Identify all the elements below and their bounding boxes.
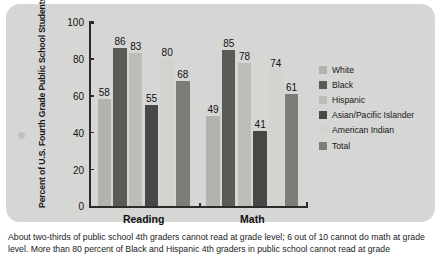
legend-item[interactable]: Total (319, 138, 435, 153)
chart-legend: WhiteBlackHispanicAsian/Pacific Islander… (319, 62, 435, 153)
bar-series-container: 588683558068498578417461 (91, 22, 308, 206)
bar-value-label: 41 (255, 119, 266, 130)
x-axis-group-label: Reading (123, 213, 164, 225)
bar-value-label: 83 (130, 41, 141, 52)
y-axis-tick-label: 20 (73, 164, 84, 175)
plot-area: 020406080100 588683558068498578417461 Re… (89, 22, 308, 208)
bar: 78 (238, 63, 252, 207)
legend-swatch-icon (319, 66, 327, 74)
bar-value-label: 86 (114, 36, 125, 47)
bar-value-label: 68 (177, 69, 188, 80)
legend-item[interactable]: Hispanic (319, 92, 435, 107)
plot-inner: 020406080100 588683558068498578417461 Re… (89, 22, 308, 208)
bar: 83 (129, 53, 143, 206)
bar-value-label: 49 (207, 104, 218, 115)
bar: 74 (269, 70, 283, 206)
y-axis-tick-label: 0 (78, 201, 84, 212)
bar: 85 (222, 50, 236, 207)
y-axis-tick-label: 80 (73, 53, 84, 64)
bar: 86 (113, 48, 127, 207)
legend-label: Black (332, 80, 353, 90)
legend-label: American Indian (332, 125, 394, 135)
chart-panel: Percent of U.S. Fourth Grade Public Scho… (6, 4, 435, 222)
bar-value-label: 55 (146, 93, 157, 104)
y-axis-tick-label: 100 (67, 17, 84, 28)
bar-value-label: 58 (99, 87, 110, 98)
legend-item[interactable]: Asian/Pacific Islander (319, 108, 435, 123)
legend-swatch-icon (319, 142, 327, 150)
figure-caption: About two-thirds of public school 4th gr… (8, 231, 436, 256)
bar-value-label: 80 (162, 47, 173, 58)
caption-line-1: About two-thirds of public school 4th gr… (8, 232, 400, 242)
y-axis-title-text: Percent of U.S. Fourth Grade Public Scho… (37, 12, 48, 208)
legend-swatch-icon (319, 96, 327, 104)
legend-swatch-icon (319, 111, 327, 119)
bar: 55 (145, 105, 159, 206)
bar: 61 (285, 94, 299, 206)
chart-figure: Percent of U.S. Fourth Grade Public Scho… (0, 0, 441, 262)
y-axis-title: Percent of U.S. Fourth Grade Public Scho… (20, 10, 66, 210)
legend-label: White (332, 65, 354, 75)
legend-item[interactable]: Black (319, 77, 435, 92)
legend-label: Total (332, 141, 350, 151)
bar-value-label: 61 (286, 82, 297, 93)
legend-swatch-icon (319, 81, 327, 89)
legend-label: Asian/Pacific Islander (332, 110, 414, 120)
legend-swatch-icon (319, 126, 327, 134)
x-axis-group-label: Math (240, 213, 265, 225)
y-axis-tick-label: 40 (73, 127, 84, 138)
legend-label: Hispanic (332, 95, 365, 105)
bar-value-label: 74 (270, 58, 281, 69)
bar-value-label: 85 (223, 38, 234, 49)
bar: 68 (176, 81, 190, 206)
bar: 41 (253, 131, 267, 207)
y-axis-tick-label: 60 (73, 90, 84, 101)
bar-value-label: 78 (239, 51, 250, 62)
bar: 80 (160, 59, 174, 207)
bar: 49 (206, 116, 220, 206)
bar: 58 (98, 99, 112, 206)
legend-item[interactable]: American Indian (319, 123, 435, 138)
legend-item[interactable]: White (319, 62, 435, 77)
